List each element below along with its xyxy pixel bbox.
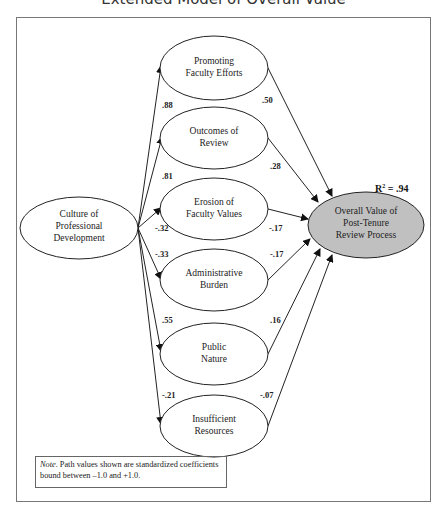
arrow-admin-target	[268, 239, 310, 280]
note-text: Path values shown are standardized coeff…	[40, 460, 218, 480]
coef-source-public: .55	[162, 315, 173, 325]
coef-outcomes-target: .28	[270, 161, 281, 171]
mediator-label-line: Public	[202, 342, 226, 352]
coef-promoting-target: .50	[262, 95, 273, 105]
arrow-source-promoting	[138, 66, 161, 228]
mediator-label-line: Administrative	[186, 268, 243, 278]
mediator-node-outcomes: Outcomes of Review	[160, 107, 268, 169]
mediator-label-line: Faculty Values	[186, 209, 242, 219]
r-squared-label: R2 = .94	[375, 183, 408, 194]
source-label-line: Development	[53, 233, 105, 243]
mediator-node-insufficient: Insufficient Resources	[160, 395, 268, 457]
mediator-label-line: Resources	[194, 426, 233, 436]
coef-source-outcomes: .81	[162, 171, 173, 181]
coef-erosion-target: -.17	[269, 223, 283, 233]
arrow-source-public	[138, 228, 161, 351]
target-label-line: Post-Tenure	[343, 218, 389, 228]
arrow-source-outcomes	[138, 137, 162, 228]
coef-admin-target: -.17	[270, 249, 284, 259]
arrow-promoting-target	[268, 68, 332, 196]
source-node: Culture of Professional Development	[20, 197, 138, 259]
target-label-line: Review Process	[336, 230, 397, 240]
coef-source-admin: -.33	[155, 249, 168, 259]
mediator-label-line: Insufficient	[192, 414, 236, 424]
mediator-label-line: Nature	[201, 354, 227, 364]
path-diagram: Culture of Professional Development Prom…	[0, 0, 447, 519]
arrow-public-target	[268, 249, 320, 354]
mediator-label-line: Faculty Efforts	[185, 68, 242, 78]
mediator-node-public: Public Nature	[160, 323, 268, 385]
coef-source-promoting: .88	[162, 100, 173, 110]
coef-public-target: .16	[270, 315, 281, 325]
coef-insufficient-target: -.07	[260, 390, 274, 400]
arrow-insufficient-target	[268, 255, 332, 426]
mediator-node-erosion: Erosion of Faculty Values	[160, 178, 268, 240]
source-to-mediator-arrows	[138, 66, 162, 424]
mediator-node-admin: Administrative Burden	[160, 249, 268, 311]
target-label-line: Overall Value of	[335, 206, 398, 216]
target-node: Overall Value of Post-Tenure Review Proc…	[308, 192, 424, 258]
mediator-label-line: Burden	[200, 280, 228, 290]
mediator-label-line: Promoting	[194, 56, 234, 66]
coef-source-insufficient: -.21	[162, 390, 175, 400]
coef-source-erosion: -.32	[155, 223, 168, 233]
source-label-line: Culture of	[60, 209, 100, 219]
mediator-label-line: Review	[199, 138, 228, 148]
source-label-line: Professional	[56, 221, 103, 231]
arrow-erosion-target	[268, 209, 308, 219]
mediator-node-promoting: Promoting Faculty Efforts	[160, 36, 268, 100]
note-label: Note.	[40, 460, 58, 469]
mediator-label-line: Erosion of	[194, 197, 235, 207]
figure-note: Note. Path values shown are standardized…	[35, 456, 227, 488]
mediator-label-line: Outcomes of	[190, 126, 240, 136]
